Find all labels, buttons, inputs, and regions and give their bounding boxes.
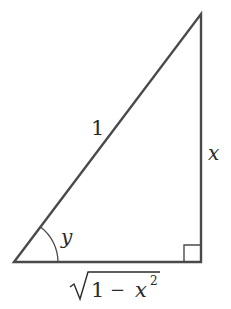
- right-angle-marker: [184, 245, 201, 262]
- angle-label: y: [60, 225, 73, 249]
- hypotenuse-label: 1: [91, 116, 104, 140]
- base-label: 1 − x 2: [70, 272, 160, 302]
- right-triangle-diagram: 1 x y 1 − x 2: [0, 0, 231, 309]
- vertical-leg-label: x: [208, 141, 219, 165]
- base-label-variable: x: [135, 278, 147, 302]
- triangle: [14, 14, 201, 262]
- base-label-operator: −: [110, 279, 125, 300]
- base-label-number: 1: [91, 278, 104, 302]
- angle-arc: [41, 227, 59, 262]
- base-label-exponent: 2: [150, 274, 158, 288]
